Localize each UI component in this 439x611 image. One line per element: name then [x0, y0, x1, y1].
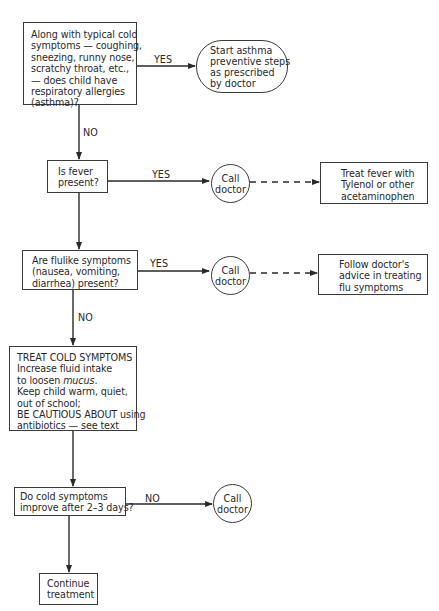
node-text: by doctor	[210, 78, 287, 89]
text-part: to loosen	[17, 375, 63, 386]
node-text: Along with typical cold	[31, 29, 132, 40]
node-text: scratchy throat, etc.,	[31, 63, 132, 74]
node-text: Tylenol or other	[341, 179, 427, 190]
node-text: present?	[58, 177, 107, 188]
asthma-action-oval: Start asthma preventive steps as prescri…	[196, 40, 288, 93]
node-text: Continue	[47, 578, 97, 589]
node-heading: TREAT COLD SYMPTOMS	[17, 352, 136, 363]
node-text: improve after 2–3 days?	[20, 502, 125, 513]
mucus-term: mucus	[63, 375, 94, 386]
edge-label-yes: YES	[152, 169, 170, 180]
node-text: Is fever	[58, 166, 107, 177]
fever-treatment-box: Treat fever with Tylenol or other acetam…	[320, 162, 428, 204]
flu-question-box: Are flulike symptoms (nausea, vomiting, …	[22, 250, 138, 290]
fever-question-box: Is fever present?	[47, 160, 108, 193]
node-text: Increase fluid intake	[17, 363, 136, 374]
node-text: acetaminophen	[341, 191, 427, 202]
node-text: sneezing, runny nose,	[31, 52, 132, 63]
node-text: doctor	[217, 504, 248, 515]
node-text: advice in treating	[339, 270, 427, 281]
node-text: Do cold symptoms	[20, 491, 125, 502]
node-text: symptoms — coughing,	[31, 40, 132, 51]
edge-label-yes: YES	[150, 258, 168, 269]
node-text: Are flulike symptoms	[32, 255, 137, 266]
edge-label-no: NO	[83, 127, 98, 138]
node-text: flu symptoms	[339, 282, 427, 293]
node-text: treatment	[47, 589, 97, 600]
node-text: Follow doctor's	[339, 259, 427, 270]
node-text: doctor	[215, 276, 246, 287]
node-text: antibiotics — see text	[17, 420, 136, 431]
node-text: to loosen mucus.	[17, 375, 136, 386]
call-doctor-circle: Call doctor	[211, 164, 250, 203]
node-text: Call	[215, 265, 246, 276]
node-text: (asthma)?	[31, 97, 132, 108]
text-part: .	[94, 375, 97, 386]
asthma-question-box: Along with typical cold symptoms — cough…	[23, 22, 137, 105]
node-text: diarrhea) present?	[32, 278, 137, 289]
node-text: — does child have	[31, 75, 132, 86]
node-text: Call	[215, 173, 246, 184]
node-text: as prescribed	[210, 67, 287, 78]
node-text: Keep child warm, quiet,	[17, 386, 136, 397]
node-text: preventive steps	[210, 56, 287, 67]
flu-treatment-box: Follow doctor's advice in treating flu s…	[318, 254, 428, 295]
node-text: doctor	[215, 184, 246, 195]
node-text: out of school;	[17, 398, 136, 409]
call-doctor-circle: Call doctor	[211, 256, 250, 295]
node-text: Treat fever with	[341, 168, 427, 179]
edge-label-yes: YES	[154, 54, 172, 65]
improve-question-box: Do cold symptoms improve after 2–3 days?	[14, 487, 126, 516]
treat-cold-box: TREAT COLD SYMPTOMS Increase fluid intak…	[9, 346, 137, 431]
node-text: BE CAUTIOUS ABOUT using	[17, 409, 136, 420]
node-text: respiratory allergies	[31, 86, 132, 97]
node-text: (nausea, vomiting,	[32, 266, 137, 277]
edge-label-no: NO	[145, 493, 160, 504]
node-text: Call	[217, 493, 248, 504]
continue-treatment-box: Continue treatment	[39, 573, 98, 605]
edge-label-no: NO	[78, 312, 93, 323]
call-doctor-circle: Call doctor	[213, 484, 252, 523]
node-text: Start asthma	[210, 45, 287, 56]
